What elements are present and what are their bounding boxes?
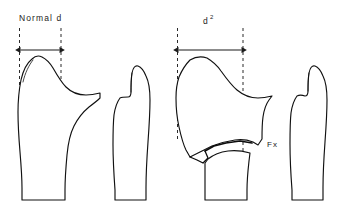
fracture-distance-label-superscript: 2 bbox=[210, 14, 214, 20]
normal-distance-label: Normal d bbox=[19, 13, 62, 23]
figure-root: Normal d d 2 Fx bbox=[0, 0, 351, 218]
bone-fracture-diagram: Normal d d 2 Fx bbox=[0, 0, 351, 218]
fracture-distance-label: d bbox=[203, 16, 209, 26]
fractured-tibia-lower-shaft bbox=[205, 151, 250, 200]
fracture-label: Fx bbox=[267, 140, 278, 149]
